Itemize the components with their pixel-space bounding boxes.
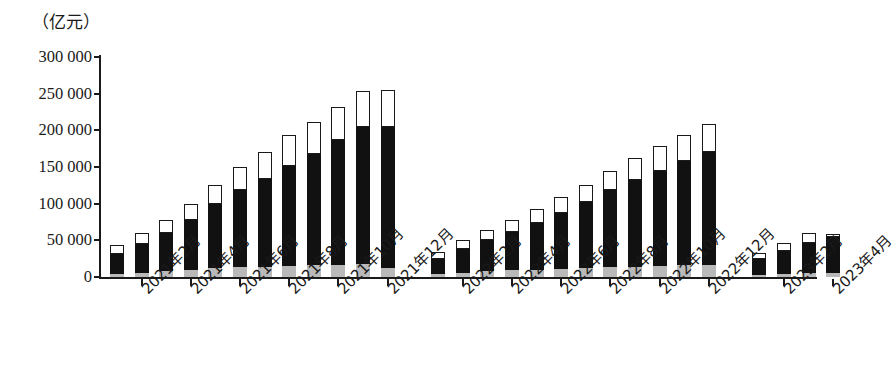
x-axis-tick-mark [708,279,710,286]
bar-segment-top [777,243,791,250]
bar-segment-bottom [431,274,445,277]
y-axis-tick-mark [94,203,101,205]
x-axis-tick-mark [190,279,192,286]
y-axis-tick-mark [94,276,101,278]
x-axis-labels: 2021年2月2021年4月2021年6月2021年8月2021年10月2021… [0,283,831,383]
bar [135,233,149,277]
bar-segment-top [233,167,247,190]
bar-segment-bottom [110,274,124,277]
bar-segment-top [603,171,617,191]
bar [110,245,124,277]
bar-segment-middle [135,244,149,273]
bar-segment-middle [456,249,470,272]
bar-segment-top [802,233,816,243]
x-axis-tick-mark [783,279,785,286]
y-axis-tick-mark [94,239,101,241]
y-axis-tick-mark [94,166,101,168]
bar-segment-top [480,230,494,240]
bar-segment-middle [110,254,124,275]
x-axis-tick-mark [511,279,513,286]
y-axis-tick-label: 50 000 [47,230,92,250]
x-axis-tick-mark [659,279,661,286]
y-axis-tick-label: 100 000 [38,194,92,214]
bar-segment-top [159,220,173,233]
bar-segment-top [653,146,667,170]
bar-segment-top [554,197,568,213]
y-axis-tick-label: 250 000 [38,84,92,104]
bar-segment-top [258,152,272,179]
bar-segment-top [381,90,395,127]
x-axis-tick-mark [288,279,290,286]
x-axis-tick-mark [832,279,834,286]
y-axis-tick-label: 300 000 [38,47,92,67]
y-axis-tick-mark [94,129,101,131]
x-axis-tick-mark [560,279,562,286]
bar-segment-top [456,240,470,249]
y-axis-tick-label: 150 000 [38,157,92,177]
bar-segment-top [282,135,296,166]
bar-segment-top [579,185,593,203]
bar-segment-middle [356,127,370,263]
bar-segment-top [331,107,345,140]
x-axis-tick-mark [387,279,389,286]
y-axis-tick-label: 200 000 [38,120,92,140]
bar-segment-top [702,124,716,153]
x-axis-tick-mark [337,279,339,286]
bar-segment-top [628,158,642,180]
x-axis-tick-mark [239,279,241,286]
x-axis-tick-mark [141,279,143,286]
y-axis-tick-mark [94,56,101,58]
bar-segment-top [307,122,321,154]
bar-segment-bottom [752,275,766,277]
x-axis-tick-mark [609,279,611,286]
y-axis-tick-mark [94,93,101,95]
bar-segment-top [184,204,198,220]
bar-segment-top [135,233,149,244]
bar-segment-top [208,185,222,203]
bar-segment-top [110,245,124,253]
bar-segment-top [677,135,691,161]
bar-segment-top [530,209,544,223]
x-axis-tick-mark [462,279,464,286]
bar-segment-top [356,91,370,128]
